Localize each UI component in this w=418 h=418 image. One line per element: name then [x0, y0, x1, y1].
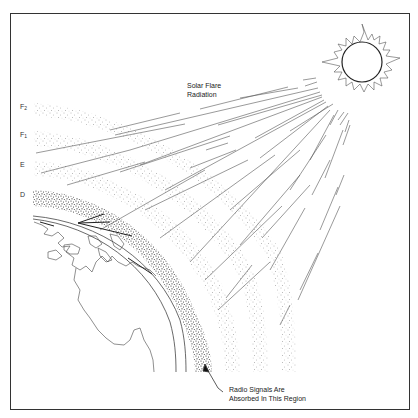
solar-flare-label-line2: Radiation [187, 90, 221, 99]
layer-label-e: E [20, 161, 25, 168]
solar-flare-label-line1: Solar Flare [187, 81, 221, 90]
ionosphere-illustration [0, 0, 418, 418]
absorption-callout-line2: Absorbed In This Region [229, 394, 306, 403]
earth-limb-inner [33, 219, 176, 372]
earth-limb-outer [33, 216, 186, 372]
absorption-callout: Radio Signals Are Absorbed In This Regio… [229, 385, 306, 403]
absorption-callout-line1: Radio Signals Are [229, 385, 306, 394]
band-e [34, 161, 240, 372]
layer-label-d: D [20, 191, 25, 198]
sun-icon [322, 24, 400, 92]
callout-leader [203, 364, 223, 392]
earth [33, 214, 186, 372]
layer-label-f1: F1 [20, 131, 27, 139]
solar-flare-label: Solar Flare Radiation [187, 81, 221, 99]
layer-label-f2: F2 [20, 103, 27, 111]
